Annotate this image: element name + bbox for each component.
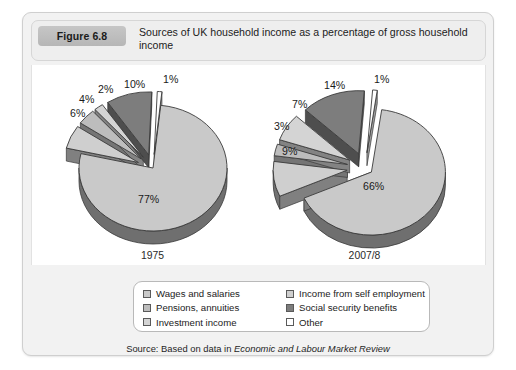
legend-item-label: Pensions, annuities <box>156 302 239 313</box>
legend-item[interactable]: Wages and salaries <box>143 287 286 301</box>
legend-swatch-icon <box>143 290 151 298</box>
pie-chart-1975: 77%6%4%2%10%1% 1975 <box>50 65 255 265</box>
figure-number-badge: Figure 6.8 <box>38 26 126 46</box>
legend-item-label: Social security benefits <box>299 302 397 313</box>
legend-swatch-icon <box>286 304 294 312</box>
source-prefix: Source: Based on data in <box>126 343 234 354</box>
chart-legend: Wages and salariesPensions, annuitiesInv… <box>133 281 430 332</box>
legend-item[interactable]: Other <box>286 315 429 329</box>
legend-column-right: Income from self employmentSocial securi… <box>286 287 429 331</box>
legend-item-label: Investment income <box>156 317 237 328</box>
legend-item-label: Income from self employment <box>299 288 425 299</box>
legend-column-left: Wages and salariesPensions, annuitiesInv… <box>143 287 286 331</box>
pie-chart-1975-year-label: 1975 <box>50 250 255 261</box>
legend-swatch-icon <box>286 318 294 326</box>
pie-chart-2007-8-graphic <box>262 65 467 265</box>
pie-chart-1975-graphic <box>50 65 255 265</box>
legend-swatch-icon <box>143 304 151 312</box>
pie-chart-2007-8-year-label: 2007/8 <box>262 250 467 261</box>
legend-item[interactable]: Social security benefits <box>286 301 429 315</box>
legend-swatch-icon <box>143 318 151 326</box>
legend-swatch-icon <box>286 290 294 298</box>
legend-item[interactable]: Pensions, annuities <box>143 301 286 315</box>
legend-item-label: Other <box>299 317 323 328</box>
pie-chart-2007-8: 66%9%3%7%14%1% 2007/8 <box>262 65 467 265</box>
chart-plot-area: 77%6%4%2%10%1% 1975 66%9%3%7%14%1% 2007/… <box>31 65 486 265</box>
legend-item[interactable]: Investment income <box>143 315 286 329</box>
figure-title: Sources of UK household income as a perc… <box>139 26 469 53</box>
figure-header: Figure 6.8 Sources of UK household incom… <box>31 20 486 61</box>
source-journal-title: Economic and Labour Market Review <box>234 343 390 354</box>
source-note: Source: Based on data in Economic and La… <box>23 343 493 354</box>
legend-item-label: Wages and salaries <box>156 288 240 299</box>
figure-card: Figure 6.8 Sources of UK household incom… <box>22 12 494 356</box>
legend-item[interactable]: Income from self employment <box>286 287 429 301</box>
